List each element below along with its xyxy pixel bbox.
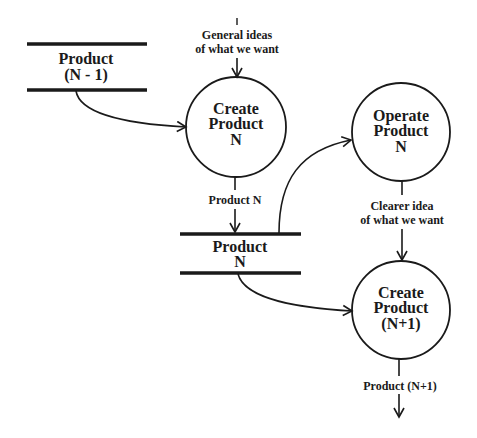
flow-label: Product (N+1) bbox=[363, 379, 437, 393]
flow-clearer-idea: Clearer idea of what we want bbox=[360, 181, 444, 260]
flow-label: Product N bbox=[209, 193, 262, 207]
flow-arrow-store-to-operate bbox=[279, 140, 351, 233]
flow-product-n1: Product (N+1) bbox=[363, 359, 437, 417]
flow-label-line1: General ideas bbox=[202, 28, 273, 42]
process-label-line2: Product bbox=[374, 299, 429, 316]
process-label-line3: N bbox=[395, 138, 407, 155]
process-label-line2: Product bbox=[374, 122, 429, 139]
store-product-n: Product N bbox=[180, 234, 301, 273]
flow-label-line2: of what we want bbox=[195, 42, 279, 56]
flow-label-line2: of what we want bbox=[360, 213, 444, 227]
process-label-line3: N bbox=[230, 131, 242, 148]
flow-product-n: Product N bbox=[209, 177, 262, 232]
flow-arrow-prev-to-create bbox=[76, 91, 186, 127]
store-label-line2: (N - 1) bbox=[64, 66, 108, 84]
store-product-n-minus-1: Product (N - 1) bbox=[27, 44, 147, 90]
store-label-line1: Product bbox=[59, 50, 114, 67]
process-label-line3: (N+1) bbox=[381, 315, 420, 333]
diagram-canvas: Product (N - 1) General ideas of what we… bbox=[0, 0, 477, 438]
process-create-product-n1: Create Product (N+1) bbox=[352, 261, 450, 359]
process-label-line2: Product bbox=[209, 115, 264, 132]
process-create-product-n: Create Product N bbox=[186, 77, 286, 177]
flow-label-line1: Clearer idea bbox=[370, 199, 433, 213]
flow-general-ideas: General ideas of what we want bbox=[195, 18, 279, 77]
flow-arrow-store-to-create-n1 bbox=[238, 274, 352, 311]
store-label-line2: N bbox=[234, 253, 246, 270]
process-operate-product-n: Operate Product N bbox=[352, 83, 450, 181]
